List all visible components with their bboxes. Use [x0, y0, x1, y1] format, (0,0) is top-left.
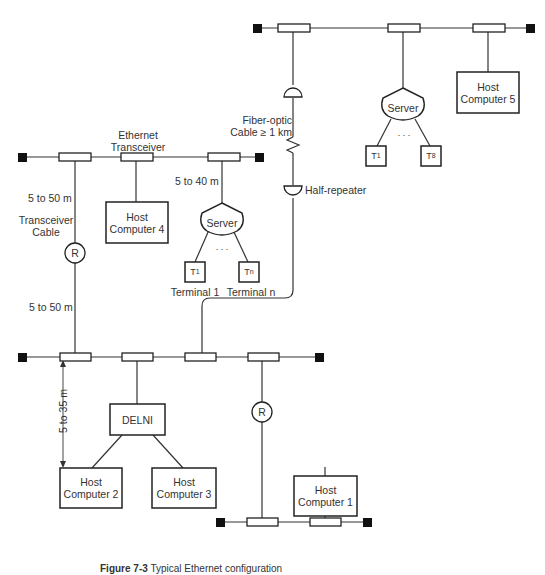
server-left: Server — [200, 215, 244, 231]
label-line: Fiber-optic — [228, 114, 292, 126]
node-label: Computer 4 — [110, 223, 165, 235]
repeater-symbol: R — [257, 406, 267, 418]
terminal-left-n: Tn — [239, 262, 259, 282]
label-line: Ethernet — [108, 129, 168, 141]
terminal-subscript: 1 — [377, 150, 381, 162]
label-line: Cable — [18, 226, 74, 238]
host-computer-5: Host Computer 5 — [457, 72, 519, 113]
node-label: Host — [315, 484, 337, 496]
transceiver-cable-label: Transceiver Cable — [18, 214, 74, 238]
node-label: Host — [126, 211, 148, 223]
delni: DELNI — [110, 404, 165, 435]
label-line: Transceiver — [18, 214, 74, 226]
terminal-subscript: 1 — [196, 266, 200, 278]
server-right: Server — [381, 100, 425, 116]
figure-number: Figure 7-3 — [100, 563, 148, 574]
host-computer-3: Host Computer 3 — [152, 468, 216, 508]
ethernet-transceiver-label: Ethernet Transceiver — [108, 129, 168, 153]
figure-caption: Figure 7-3 Typical Ethernet configuratio… — [100, 563, 282, 574]
repeater-symbol: R — [70, 247, 80, 259]
terminal-subscript: 8 — [432, 150, 436, 162]
half-repeater-label: Half-repeater — [305, 184, 366, 196]
distance-5-50-top: 5 to 50 m — [28, 192, 72, 204]
label-line: Cable ≥ 1 km — [228, 126, 292, 138]
node-label: Host — [477, 81, 499, 93]
node-label: Computer 1 — [298, 496, 353, 508]
distance-5-50-bottom: 5 to 50 m — [29, 301, 73, 313]
host-computer-1: Host Computer 1 — [294, 476, 357, 516]
label-line: Transceiver — [108, 141, 168, 153]
distance-5-40: 5 to 40 m — [175, 175, 219, 187]
node-label: Computer 5 — [461, 93, 516, 105]
ellipsis: . . . — [389, 127, 419, 139]
node-label: Computer 3 — [157, 488, 212, 500]
node-label: Computer 2 — [64, 488, 119, 500]
terminal-1-caption: Terminal 1 — [165, 286, 225, 298]
host-computer-2: Host Computer 2 — [60, 468, 122, 508]
distance-5-35: 5 to 35 m — [57, 386, 69, 436]
node-label: Host — [80, 476, 102, 488]
terminal-right-8: T8 — [421, 146, 441, 166]
fiber-optic-label: Fiber-optic Cable ≥ 1 km — [228, 114, 292, 138]
host-computer-4: Host Computer 4 — [106, 202, 168, 243]
node-label: Host — [173, 476, 195, 488]
ellipsis: . . . — [207, 241, 237, 253]
terminal-right-1: T1 — [366, 146, 386, 166]
figure-title: Typical Ethernet configuration — [150, 563, 282, 574]
terminal-n-caption: Terminal n — [221, 286, 281, 298]
terminal-subscript: n — [250, 266, 254, 278]
terminal-left-1: T1 — [185, 262, 205, 282]
